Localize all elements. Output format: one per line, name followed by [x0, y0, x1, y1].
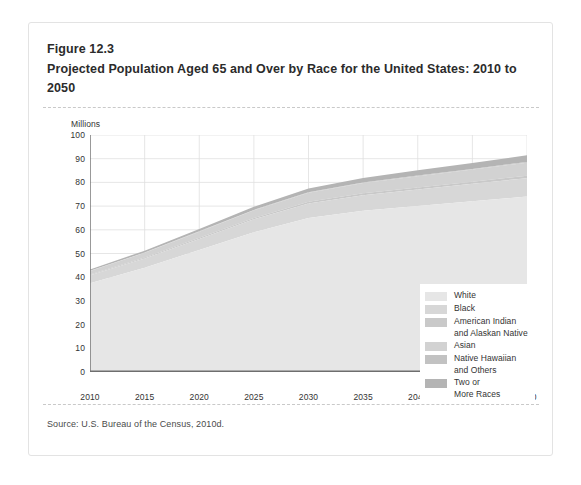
legend-item-label: Asian: [454, 340, 476, 352]
divider-bottom: [43, 404, 539, 405]
y-axis-tick: 0: [61, 367, 85, 377]
y-axis-tick: 30: [61, 296, 85, 306]
legend-swatch-icon: [425, 318, 447, 327]
page-title: Projected Population Aged 65 and Over by…: [47, 60, 527, 98]
y-axis-tick: 70: [61, 201, 85, 211]
y-axis-tick: 80: [61, 177, 85, 187]
x-axis-tick: 2015: [127, 392, 163, 402]
legend-item: American Indianand Alaskan Native: [425, 316, 531, 339]
chart-area: Millions 0102030405060708090100 20102015…: [43, 119, 539, 399]
x-axis-tick: 2030: [291, 392, 327, 402]
source-note: Source: U.S. Bureau of the Census, 2010d…: [47, 419, 224, 429]
y-axis-tick: 90: [61, 154, 85, 164]
legend-swatch-icon: [425, 379, 447, 388]
legend-item: White: [425, 290, 531, 302]
y-axis-unit-label: Millions: [71, 119, 100, 129]
figure-number: Figure 12.3: [47, 40, 527, 59]
legend-item: Asian: [425, 340, 531, 352]
legend-item: Native Hawaiianand Others: [425, 353, 531, 376]
legend-swatch-icon: [425, 342, 447, 351]
y-axis-tick: 50: [61, 249, 85, 259]
legend-item-label: Black: [454, 303, 475, 315]
y-axis-tick: 20: [61, 320, 85, 330]
legend-item: Black: [425, 303, 531, 315]
x-axis-tick: 2025: [236, 392, 272, 402]
y-axis-tick: 10: [61, 343, 85, 353]
legend-item-label: White: [454, 290, 476, 302]
x-axis-tick: 2035: [345, 392, 381, 402]
x-axis-tick: 2010: [72, 392, 108, 402]
divider-top: [43, 107, 539, 108]
y-axis-tick: 60: [61, 225, 85, 235]
y-axis-tick: 40: [61, 272, 85, 282]
plot-region: 0102030405060708090100 20102015202020252…: [90, 135, 527, 372]
legend-item-label: Native Hawaiianand Others: [454, 353, 516, 376]
chart-legend: WhiteBlackAmerican Indianand Alaskan Nat…: [420, 284, 535, 407]
legend-swatch-icon: [425, 355, 447, 364]
legend-swatch-icon: [425, 305, 447, 314]
title-block: Figure 12.3 Projected Population Aged 65…: [47, 40, 527, 98]
legend-item-label: Two orMore Races: [454, 377, 500, 400]
legend-item-label: American Indianand Alaskan Native: [454, 316, 528, 339]
legend-swatch-icon: [425, 292, 447, 301]
legend-item: Two orMore Races: [425, 377, 531, 400]
figure-card: Figure 12.3 Projected Population Aged 65…: [28, 22, 553, 456]
x-axis-tick: 2020: [181, 392, 217, 402]
y-axis-tick: 100: [61, 130, 85, 140]
